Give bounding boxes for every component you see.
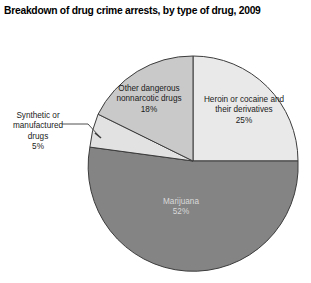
pie-label-other-value: 18% <box>104 105 194 115</box>
pie-label-marijuana: Marijuana 52% <box>146 197 216 218</box>
pie-label-heroin-value: 25% <box>196 116 292 126</box>
pie-label-other-line2: nonnarcotic drugs <box>116 94 181 103</box>
pie-chart-figure: Breakdown of drug crime arrests, by type… <box>0 0 311 283</box>
pie-label-synthetic-or-manufactured: Synthetic or manufactured drugs 5% <box>2 111 74 152</box>
pie-label-heroin-line1: Heroin or cocaine and <box>204 95 284 104</box>
pie-label-synthetic-line1: Synthetic or <box>16 111 59 120</box>
pie-label-marijuana-line1: Marijuana <box>163 197 199 206</box>
pie-label-heroin-or-cocaine: Heroin or cocaine and their derivatives … <box>196 95 292 126</box>
pie-label-synthetic-line3: drugs <box>28 132 48 141</box>
pie-label-heroin-line2: their derivatives <box>215 105 272 114</box>
pie-label-other-line1: Other dangerous <box>118 84 179 93</box>
pie-label-synthetic-line2: manufactured <box>13 121 63 130</box>
pie-label-other-dangerous-nonnarcotic: Other dangerous nonnarcotic drugs 18% <box>104 84 194 115</box>
pie-label-synthetic-value: 5% <box>2 142 74 152</box>
pie-label-marijuana-value: 52% <box>146 207 216 217</box>
